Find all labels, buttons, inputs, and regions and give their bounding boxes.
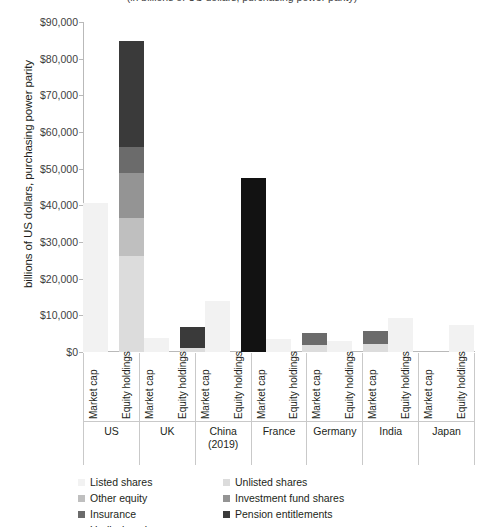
x-group-separator — [307, 421, 362, 422]
bar-equity-holdings[interactable] — [180, 327, 205, 352]
y-tick-label: $80,000 — [40, 53, 78, 65]
x-bar-label-text: Market cap — [88, 370, 99, 419]
legend-item-pension-entitlements[interactable]: Pension entitlements — [223, 508, 368, 520]
legend-item-label: Insurance — [90, 508, 136, 520]
x-group-china: Market capEquity holdingsChina(2019) — [196, 353, 252, 465]
legend-item-label: Investment fund shares — [235, 492, 344, 504]
bar-market-cap[interactable] — [205, 301, 230, 352]
bar-market-cap[interactable] — [266, 339, 291, 352]
x-bar-label-text: Market cap — [367, 370, 378, 419]
bar-segment-listed-shares[interactable] — [144, 338, 169, 352]
bar-segment-other-equity[interactable] — [119, 218, 144, 256]
x-bar-label-market-cap: Market cap — [252, 353, 274, 421]
bar-equity-holdings[interactable] — [119, 41, 144, 352]
bar-segment-unlisted-shares[interactable] — [363, 344, 388, 352]
bar-segment-listed-shares[interactable] — [388, 318, 413, 352]
x-group-separator — [419, 421, 474, 422]
x-group-uk: Market capEquity holdingsUK — [140, 353, 196, 465]
bar-market-cap[interactable] — [83, 203, 108, 352]
legend-item-unlisted-shares[interactable]: Unlisted shares — [223, 476, 368, 488]
x-group-separator — [196, 421, 251, 422]
legend-item-other-equity[interactable]: Other equity — [78, 492, 223, 504]
x-axis-labels: Market capEquity holdingsUSMarket capEqu… — [83, 353, 475, 465]
y-tick-label: $70,000 — [40, 89, 78, 101]
bar-group-france — [266, 22, 327, 352]
x-group-name: China(2019) — [196, 425, 251, 451]
x-bar-label-equity-holdings: Equity holdings — [285, 353, 307, 421]
x-bar-label-market-cap: Market cap — [419, 353, 441, 421]
plot-area: $0$10,000$20,000$30,000$40,000$50,000$60… — [83, 22, 475, 352]
bar-segment-insurance[interactable] — [119, 147, 144, 174]
bar-equity-holdings[interactable] — [302, 333, 327, 352]
bar-segment-pension-entitlements[interactable] — [119, 41, 144, 147]
bar-segment-investment-fund-shares[interactable] — [119, 173, 144, 218]
x-bar-label-market-cap: Market cap — [307, 353, 329, 421]
chart-figure: (in billions of US dollars, purchasing p… — [0, 0, 484, 527]
bar-group-china — [205, 22, 266, 352]
x-bar-label-text: Market cap — [423, 370, 434, 419]
x-group-name: India — [363, 425, 418, 438]
x-bar-label-text: Market cap — [144, 370, 155, 419]
x-group-name: UK — [140, 425, 195, 438]
x-bar-labels: Market capEquity holdings — [196, 353, 251, 421]
legend-item-investment-fund-shares[interactable]: Investment fund shares — [223, 492, 368, 504]
y-tick-label: $40,000 — [40, 199, 78, 211]
legend-item-label: Other equity — [90, 492, 147, 504]
bar-segment-listed-shares[interactable] — [266, 339, 291, 352]
bar-segment-unlisted-shares[interactable] — [302, 345, 327, 352]
bar-equity-holdings[interactable] — [363, 331, 388, 352]
x-bar-label-equity-holdings: Equity holdings — [396, 353, 418, 421]
y-tick-label: $90,000 — [40, 16, 78, 28]
x-group-name-sub: (2019) — [196, 438, 251, 451]
bar-equity-holdings[interactable] — [241, 178, 266, 352]
bar-segment-pension-entitlements[interactable] — [180, 327, 205, 348]
bar-market-cap[interactable] — [144, 338, 169, 352]
bar-group-germany — [327, 22, 388, 352]
bar-segment-listed-shares[interactable] — [449, 325, 474, 352]
bar-segment-insurance[interactable] — [302, 333, 327, 345]
x-bar-label-market-cap: Market cap — [363, 353, 385, 421]
y-tick-label: $30,000 — [40, 236, 78, 248]
x-bar-label-text: Equity holdings — [344, 351, 355, 419]
x-group-japan: Market capEquity holdingsJapan — [419, 353, 475, 465]
x-bar-labels: Market capEquity holdings — [140, 353, 195, 421]
legend-swatch-icon — [78, 495, 85, 502]
bar-segment-listed-shares[interactable] — [83, 203, 108, 352]
x-group-india: Market capEquity holdingsIndia — [363, 353, 419, 465]
legend-swatch-icon — [78, 479, 85, 486]
bar-group-japan — [449, 22, 484, 352]
bar-segment-unlisted-shares[interactable] — [119, 256, 144, 352]
x-bar-label-market-cap: Market cap — [84, 353, 106, 421]
legend-swatch-icon — [78, 511, 85, 518]
bar-segment-insurance[interactable] — [363, 331, 388, 345]
bar-market-cap[interactable] — [388, 318, 413, 352]
x-bar-label-equity-holdings: Equity holdings — [229, 353, 251, 421]
bar-groups — [83, 22, 475, 352]
x-group-germany: Market capEquity holdingsGermany — [307, 353, 363, 465]
y-tick-label: $20,000 — [40, 273, 78, 285]
bar-market-cap[interactable] — [449, 325, 474, 352]
x-group-name: US — [84, 425, 139, 438]
legend-item-insurance[interactable]: Insurance — [78, 508, 223, 520]
bar-group-uk — [144, 22, 205, 352]
x-bar-label-text: Equity holdings — [400, 351, 411, 419]
x-bar-label-text: Market cap — [311, 370, 322, 419]
x-bar-label-text: Equity holdings — [288, 351, 299, 419]
legend-swatch-icon — [223, 511, 230, 518]
x-group-separator — [140, 421, 195, 422]
x-bar-label-text: Market cap — [256, 370, 267, 419]
x-bar-label-text: Equity holdings — [177, 351, 188, 419]
x-bar-label-text: Equity holdings — [233, 351, 244, 419]
x-bar-label-market-cap: Market cap — [140, 353, 162, 421]
legend-item-label: Unlisted shares — [235, 476, 307, 488]
bar-segment-undisclosed[interactable] — [241, 178, 266, 352]
x-bar-labels: Market capEquity holdings — [363, 353, 418, 421]
y-tick-label: $10,000 — [40, 309, 78, 321]
x-bar-label-text: Equity holdings — [121, 351, 132, 419]
x-bar-label-text: Equity holdings — [456, 351, 467, 419]
legend-item-listed-shares[interactable]: Listed shares — [78, 476, 223, 488]
bar-segment-listed-shares[interactable] — [205, 301, 230, 352]
x-bar-label-equity-holdings: Equity holdings — [117, 353, 139, 421]
x-group-name: Japan — [419, 425, 474, 438]
x-bar-labels: Market capEquity holdings — [252, 353, 307, 421]
